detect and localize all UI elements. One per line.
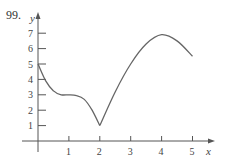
y-axis-label: y [29, 12, 35, 24]
x-ticks: 12345 [66, 136, 195, 157]
function-curve [38, 35, 193, 126]
y-tick-label: 6 [28, 43, 33, 54]
x-tick-label: 2 [97, 146, 102, 157]
axes [22, 16, 212, 152]
x-tick-label: 4 [159, 146, 164, 157]
x-tick-label: 5 [190, 146, 195, 157]
y-axis-arrow-icon [36, 12, 41, 19]
y-ticks: 1234567 [28, 28, 46, 131]
y-tick-label: 2 [28, 105, 33, 116]
x-tick-label: 1 [66, 146, 71, 157]
x-axis-arrow-icon [208, 139, 215, 144]
y-tick-label: 7 [28, 28, 33, 39]
y-tick-label: 4 [28, 74, 33, 85]
y-tick-label: 1 [28, 120, 33, 131]
function-graph: 12345 1234567 y x [0, 0, 226, 160]
x-tick-label: 3 [128, 146, 133, 157]
x-axis-label: x [205, 145, 211, 157]
y-tick-label: 5 [28, 59, 33, 70]
y-tick-label: 3 [28, 89, 33, 100]
